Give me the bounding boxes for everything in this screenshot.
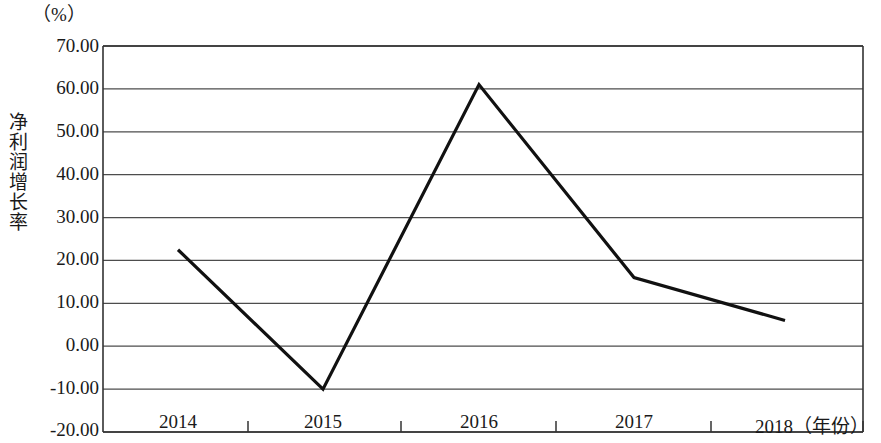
x-tick-label-2017: 2017 (615, 411, 653, 433)
gridlines (103, 46, 863, 432)
x-tick-label-2014: 2014 (159, 411, 197, 433)
data-line-net-profit-growth (178, 85, 785, 390)
x-axis-unit-label: （年份） (793, 416, 869, 437)
x-tick-label-2018-year: 2018 (755, 416, 793, 437)
plot-area (0, 0, 881, 443)
axis-lines (103, 46, 863, 432)
line-chart: （%） 净利润增长率 70.00 60.00 50.00 40.00 30.00… (0, 0, 881, 443)
x-tick-label-2016: 2016 (460, 411, 498, 433)
x-tick-label-2015: 2015 (304, 411, 342, 433)
x-tick-label-2018: 2018（年份） (755, 411, 869, 438)
